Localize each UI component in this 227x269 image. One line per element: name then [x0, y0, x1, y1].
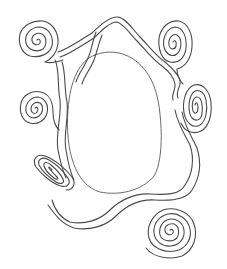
spiral-top-left: [19, 21, 63, 63]
spiral-frame-drawing: [0, 0, 227, 269]
spiral-mid-right: [181, 85, 211, 133]
frame-bands: [48, 17, 199, 229]
spiral-bottom-right: [146, 209, 196, 258]
center-oval: [67, 52, 161, 193]
spiral-mid-left: [20, 92, 59, 130]
artwork-canvas: [0, 0, 227, 269]
spiral-top-right: [159, 21, 192, 84]
